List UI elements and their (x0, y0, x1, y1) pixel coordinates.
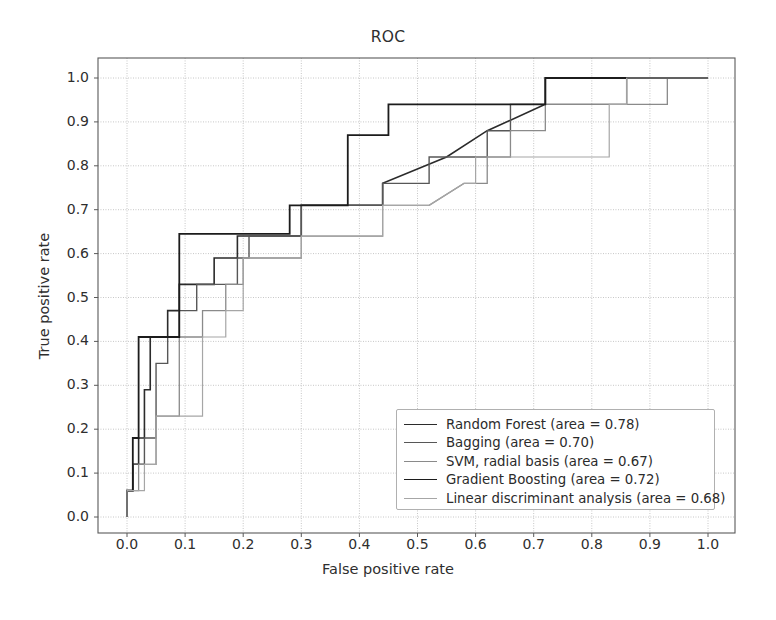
legend-item: SVM, radial basis (area = 0.67) (404, 452, 706, 470)
legend-line-swatch (404, 442, 437, 443)
chart-title: ROC (0, 28, 776, 46)
y-tick-label: 0.9 (49, 113, 89, 129)
legend-item: Gradient Boosting (area = 0.72) (404, 471, 706, 489)
roc-plot-canvas (0, 0, 776, 620)
x-tick-label: 0.1 (163, 536, 207, 552)
x-tick-label: 0.9 (628, 536, 672, 552)
y-tick-label: 0.7 (49, 201, 89, 217)
legend-line-swatch (404, 461, 437, 462)
y-tick-label: 0.6 (49, 245, 89, 261)
legend-item-label: SVM, radial basis (area = 0.67) (446, 454, 653, 469)
roc-chart-figure: ROC False positive rate True positive ra… (0, 0, 776, 620)
y-tick-label: 0.1 (49, 464, 89, 480)
legend-item-label: Random Forest (area = 0.78) (446, 417, 640, 432)
legend-item: Bagging (area = 0.70) (404, 434, 706, 452)
x-tick-label: 0.3 (279, 536, 323, 552)
legend-item: Random Forest (area = 0.78) (404, 415, 706, 433)
legend-line-swatch (404, 479, 437, 480)
x-tick-label: 0.0 (105, 536, 149, 552)
y-tick-label: 1.0 (49, 69, 89, 85)
x-tick-label: 1.0 (686, 536, 730, 552)
legend-line-swatch (404, 424, 437, 425)
y-tick-label: 0.5 (49, 289, 89, 305)
legend-item-label: Gradient Boosting (area = 0.72) (446, 472, 660, 487)
x-tick-label: 0.4 (337, 536, 381, 552)
legend-item-label: Linear discriminant analysis (area = 0.6… (446, 491, 725, 506)
x-tick-label: 0.2 (221, 536, 265, 552)
x-tick-label: 0.5 (396, 536, 440, 552)
x-tick-label: 0.7 (512, 536, 556, 552)
x-axis-label: False positive rate (0, 561, 776, 577)
legend-item-label: Bagging (area = 0.70) (446, 435, 594, 450)
x-tick-label: 0.8 (570, 536, 614, 552)
legend-line-swatch (404, 498, 437, 499)
y-tick-label: 0.8 (49, 157, 89, 173)
x-tick-label: 0.6 (454, 536, 498, 552)
y-tick-label: 0.0 (49, 508, 89, 524)
chart-legend: Random Forest (area = 0.78)Bagging (area… (396, 409, 715, 510)
y-tick-label: 0.3 (49, 376, 89, 392)
y-tick-label: 0.4 (49, 332, 89, 348)
y-tick-label: 0.2 (49, 420, 89, 436)
legend-item: Linear discriminant analysis (area = 0.6… (404, 489, 706, 507)
